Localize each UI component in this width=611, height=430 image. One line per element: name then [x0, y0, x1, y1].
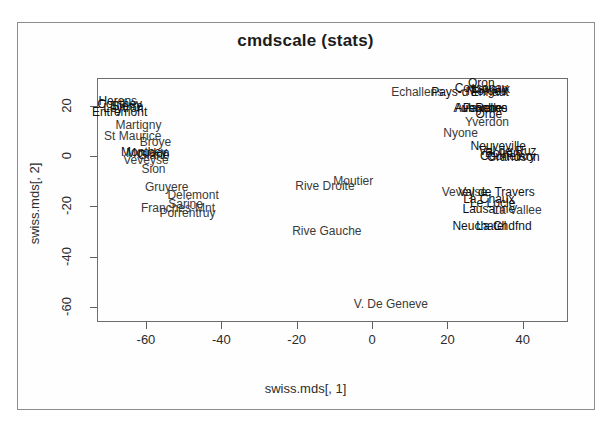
- data-point-label: La Chdfnd: [476, 220, 531, 232]
- x-axis-tick-label: -20: [277, 332, 317, 347]
- data-point-label: Moutier: [333, 175, 373, 187]
- x-axis-tick-mark: [372, 322, 373, 329]
- data-point-label: Porrentruy: [159, 207, 215, 219]
- x-axis-tick-mark: [297, 322, 298, 329]
- data-point-label: Rive Gauche: [292, 225, 361, 237]
- y-axis-tick-mark: [90, 156, 97, 157]
- y-axis-tick-label: -60: [59, 288, 74, 324]
- x-axis-tick-label: -40: [201, 332, 241, 347]
- cmdscale-scatter-plot: cmdscale (stats) -60-40-2002040200-20-40…: [0, 0, 611, 430]
- y-axis-tick-mark: [90, 307, 97, 308]
- y-axis-tick-label: 0: [59, 137, 74, 173]
- y-axis-tick-label: -20: [59, 188, 74, 224]
- x-axis-tick-mark: [221, 322, 222, 329]
- x-axis-tick-label: -60: [126, 332, 166, 347]
- y-axis-tick-mark: [90, 206, 97, 207]
- x-axis-tick-mark: [447, 322, 448, 329]
- data-point-label: La Vallee: [493, 204, 542, 216]
- data-point-label: Nyone: [443, 127, 478, 139]
- y-axis-tick-label: -40: [59, 238, 74, 274]
- y-axis-tick-label: 20: [59, 87, 74, 123]
- x-axis-tick-label: 40: [503, 332, 543, 347]
- data-point-label: V. De Geneve: [354, 298, 428, 310]
- x-axis-tick-mark: [146, 322, 147, 329]
- data-point-label: Pays-d'Enhaut: [431, 86, 509, 98]
- data-point-label: Entremont: [92, 106, 147, 118]
- data-point-label: Grandson: [487, 151, 540, 163]
- y-axis-tick-mark: [90, 257, 97, 258]
- x-axis-tick-label: 0: [352, 332, 392, 347]
- y-axis-label: swiss.mds[, 2]: [27, 124, 42, 284]
- data-point-label: Sion: [142, 163, 166, 175]
- page-title: cmdscale (stats): [0, 31, 611, 51]
- x-axis-tick-label: 20: [427, 332, 467, 347]
- x-axis-tick-mark: [523, 322, 524, 329]
- x-axis-label: swiss.mds[, 1]: [0, 381, 611, 396]
